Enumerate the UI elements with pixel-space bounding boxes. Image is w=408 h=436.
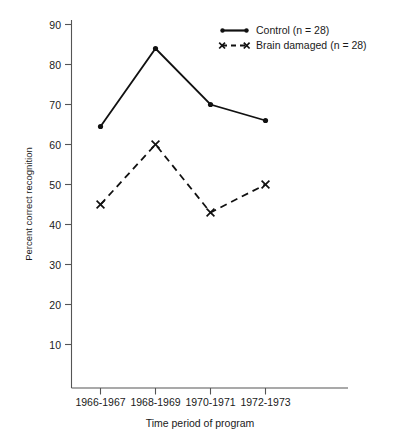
y-axis-title: Percent correct recognition xyxy=(23,147,34,261)
legend-label-control: Control (n = 28) xyxy=(256,24,329,36)
legend-marker-dot-right xyxy=(244,28,248,32)
y-tick-label-90: 90 xyxy=(49,19,61,31)
y-tick-label-40: 40 xyxy=(49,219,61,231)
series-control-point-2 xyxy=(208,102,213,107)
series-control-point-3 xyxy=(263,118,268,123)
y-tick-label-70: 70 xyxy=(49,99,61,111)
chart-container: 90 80 70 60 50 40 30 20 10 Percent corre… xyxy=(0,0,408,436)
y-tick-label-10: 10 xyxy=(49,339,61,351)
series-control-point-1 xyxy=(153,46,158,51)
series-control-point-0 xyxy=(98,124,103,129)
y-tick-label-50: 50 xyxy=(49,179,61,191)
y-axis-tick-labels: 90 80 70 60 50 40 30 20 10 xyxy=(49,19,61,351)
legend-marker-dot-left xyxy=(220,28,224,32)
y-tick-label-80: 80 xyxy=(49,59,61,71)
chart-background xyxy=(0,0,408,436)
x-tick-label-0: 1966-1967 xyxy=(75,396,125,408)
x-tick-label-1: 1968-1969 xyxy=(130,396,180,408)
x-tick-label-3: 1972-1973 xyxy=(240,396,290,408)
y-tick-label-20: 20 xyxy=(49,299,61,311)
y-tick-label-60: 60 xyxy=(49,139,61,151)
legend-label-brain-damaged: Brain damaged (n = 28) xyxy=(256,39,367,51)
y-tick-label-30: 30 xyxy=(49,259,61,271)
x-tick-label-2: 1970-1971 xyxy=(185,396,235,408)
line-chart: 90 80 70 60 50 40 30 20 10 Percent corre… xyxy=(0,0,408,436)
x-axis-title: Time period of program xyxy=(146,417,255,429)
